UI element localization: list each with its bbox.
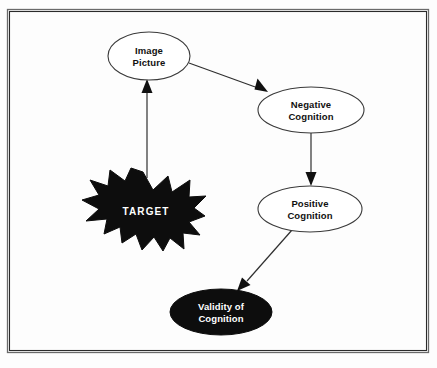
- edge-negative-cognition-to-positive-cognition: [306, 133, 317, 186]
- diagram-canvas: TARGET Image Picture Negative Cognition …: [0, 0, 437, 368]
- negative-cognition-label-line2: Cognition: [288, 111, 333, 122]
- positive-cognition-label-line2: Cognition: [287, 210, 332, 221]
- positive-cognition-label-line1: Positive: [291, 198, 328, 209]
- node-validity-of-cognition[interactable]: Validity of Cognition: [170, 289, 272, 335]
- edge-image-picture-to-negative-cognition: [189, 63, 268, 92]
- target-label: TARGET: [123, 206, 170, 217]
- edge-positive-cognition-to-validity: [237, 230, 292, 291]
- negative-cognition-label-line1: Negative: [291, 99, 331, 110]
- node-negative-cognition[interactable]: Negative Cognition: [258, 87, 364, 133]
- positive-cognition-ellipse: [258, 186, 362, 232]
- edge-target-to-image-picture: [142, 79, 153, 178]
- negative-cognition-ellipse: [258, 87, 364, 133]
- validity-of-cognition-ellipse: [170, 289, 272, 335]
- node-image-picture[interactable]: Image Picture: [108, 32, 190, 80]
- image-picture-label-line2: Picture: [133, 57, 166, 68]
- image-picture-label-line1: Image: [135, 45, 163, 56]
- validity-of-cognition-label-line2: Cognition: [198, 313, 243, 324]
- diagram-svg: TARGET Image Picture Negative Cognition …: [0, 0, 437, 368]
- node-positive-cognition[interactable]: Positive Cognition: [258, 186, 362, 232]
- validity-of-cognition-label-line1: Validity of: [198, 301, 245, 312]
- node-target[interactable]: TARGET: [82, 168, 206, 251]
- image-picture-ellipse: [108, 32, 190, 80]
